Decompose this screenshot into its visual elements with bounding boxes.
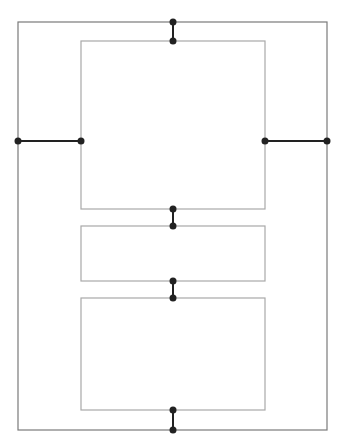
connector-dot <box>78 138 85 145</box>
top-middle-connector <box>170 206 177 230</box>
connector-dot <box>170 206 177 213</box>
connector-dot <box>170 407 177 414</box>
connector-dot <box>170 295 177 302</box>
connector-dot <box>15 138 22 145</box>
top-connector <box>170 19 177 45</box>
connector-dot <box>170 278 177 285</box>
connector-dot <box>262 138 269 145</box>
middle-bottom-connector <box>170 278 177 302</box>
connector-dot <box>170 427 177 434</box>
connector-dot <box>170 19 177 26</box>
diagram-canvas <box>0 0 346 445</box>
connector-dot <box>170 38 177 45</box>
right-connector <box>262 138 331 145</box>
left-connector <box>15 138 85 145</box>
bottom-connector <box>170 407 177 434</box>
top-box <box>81 41 265 209</box>
bottom-box <box>81 298 265 410</box>
connector-dot <box>324 138 331 145</box>
middle-box <box>81 226 265 281</box>
connector-dot <box>170 223 177 230</box>
connectors-group <box>15 19 331 434</box>
